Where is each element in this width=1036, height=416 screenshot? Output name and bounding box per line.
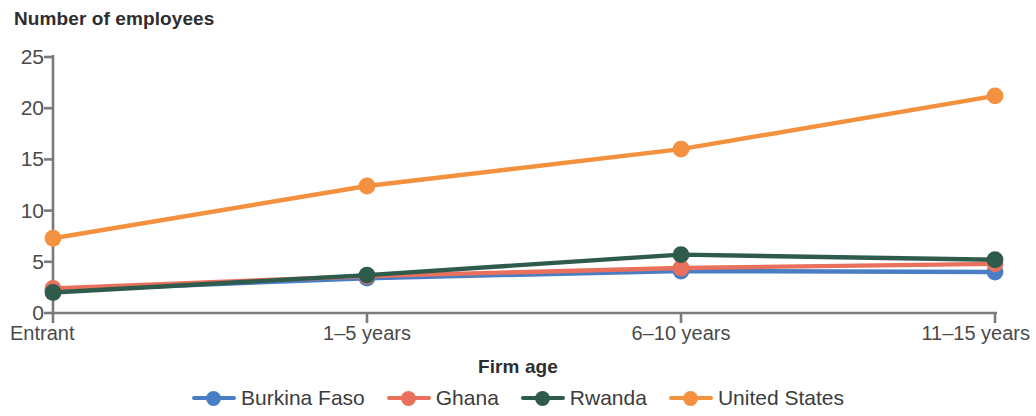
legend-item[interactable]: Rwanda (521, 386, 647, 410)
data-point (673, 141, 690, 158)
data-point (45, 230, 62, 247)
legend-marker-icon (387, 389, 431, 407)
legend-dot (401, 391, 416, 406)
legend-label: Rwanda (570, 386, 647, 410)
series-burkina-faso (45, 263, 1004, 299)
data-point (359, 267, 376, 284)
series-line (53, 96, 995, 238)
x-axis-title: Firm age (0, 356, 1036, 378)
legend-label: Burkina Faso (241, 386, 365, 410)
legend-marker-icon (521, 389, 565, 407)
legend-item[interactable]: Burkina Faso (192, 386, 365, 410)
data-point (359, 178, 376, 195)
legend-item[interactable]: Ghana (387, 386, 499, 410)
legend-marker-icon (192, 389, 236, 407)
legend-marker-icon (669, 389, 713, 407)
x-axis-tick-label: 6–10 years (0, 322, 1036, 345)
x-axis-tick-label: 11–15 years (921, 322, 1030, 345)
series-united-states (45, 88, 1004, 247)
legend-dot (206, 391, 221, 406)
data-point (673, 246, 690, 263)
data-point (45, 284, 62, 301)
data-point (987, 88, 1004, 105)
plot-area (0, 0, 1036, 416)
line-chart: Number of employees 0510152025 Entrant1–… (0, 0, 1036, 416)
legend-label: Ghana (436, 386, 499, 410)
data-point (987, 251, 1004, 268)
chart-legend: Burkina FasoGhanaRwandaUnited States (0, 386, 1036, 410)
legend-label: United States (718, 386, 844, 410)
chart-series (45, 88, 1004, 301)
legend-dot (535, 391, 550, 406)
legend-dot (683, 391, 698, 406)
legend-item[interactable]: United States (669, 386, 844, 410)
